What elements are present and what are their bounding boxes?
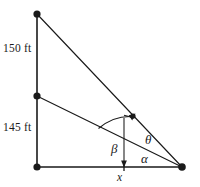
angle-theta-label: θ — [145, 133, 151, 146]
vertex-dot-top-icon — [33, 10, 40, 17]
upper-segment-length-label: 150 ft — [3, 43, 31, 55]
vertex-dot-middle-icon — [33, 92, 40, 99]
geometry-figure: 150 ft 145 ft θ α β x — [0, 0, 200, 187]
vertex-dot-bottom-left-icon — [33, 163, 40, 170]
lower-segment-length-label: 145 ft — [3, 122, 31, 134]
lower-hypotenuse-line — [37, 96, 182, 167]
angle-beta-label: β — [111, 142, 117, 155]
point-marker-icon — [130, 113, 135, 118]
base-variable-label: x — [117, 172, 122, 184]
beta-arc-curve — [99, 116, 134, 128]
upper-hypotenuse-line — [37, 14, 182, 167]
angle-alpha-label: α — [141, 152, 148, 165]
vertex-dot-bottom-right-icon — [178, 163, 186, 171]
figure-canvas — [0, 0, 200, 187]
